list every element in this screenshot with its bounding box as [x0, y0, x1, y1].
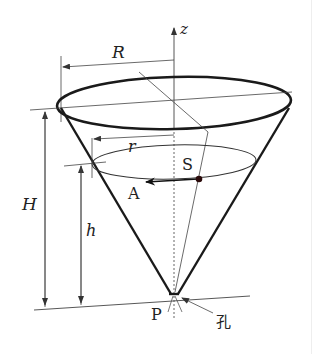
r-top-dimension	[61, 56, 174, 122]
base-line	[34, 296, 250, 310]
cone-diagram: z R r S A H h P	[0, 0, 314, 354]
z-label: z	[179, 20, 188, 38]
cone-right-side	[178, 108, 289, 294]
S-label: S	[182, 155, 193, 174]
h-label: h	[86, 221, 96, 240]
liquid-level-tick	[64, 162, 106, 166]
R-label: R	[111, 42, 125, 62]
r-label: r	[128, 137, 137, 156]
hole-leader	[182, 298, 213, 313]
page-edge	[311, 0, 312, 354]
apex-cross-left	[168, 296, 173, 312]
hole-label: 孔	[216, 313, 231, 331]
H-label: H	[21, 194, 38, 214]
point-on-surface	[196, 176, 203, 183]
A-label: A	[127, 184, 140, 203]
P-label: P	[151, 305, 162, 324]
apex-cross-right	[175, 296, 182, 312]
